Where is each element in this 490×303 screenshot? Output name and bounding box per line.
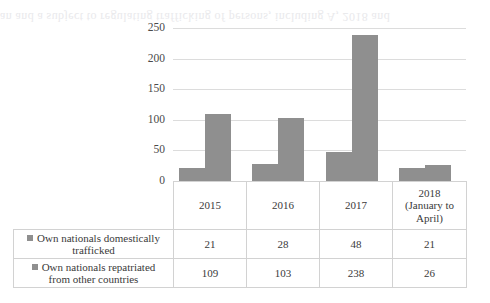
table-row: Own nationals repatriatedfrom other coun…: [14, 259, 467, 288]
table-header-year: 2015: [174, 182, 247, 230]
legend-entry-1: Own nationals domesticallytrafficked: [14, 230, 174, 259]
table-cell-value: 238: [320, 259, 393, 288]
bar-series-2: [278, 118, 304, 181]
year-header-line: (January to: [393, 199, 466, 212]
table-cell-value: 103: [247, 259, 320, 288]
bar-group: [320, 0, 393, 181]
year-header-line: 2016: [247, 199, 319, 212]
table-cell-value: 26: [393, 259, 467, 288]
legend-swatch-icon: [27, 235, 33, 241]
table-header-row: 2015201620172018(January toApril): [14, 182, 467, 230]
bar-group: [246, 0, 319, 181]
bar-series-1: [326, 152, 352, 181]
year-header-line: 2018: [393, 187, 466, 200]
bar-series-2: [352, 35, 378, 181]
year-header-line: 2017: [320, 199, 392, 212]
bar-series-2: [425, 165, 451, 181]
bar-series-2: [205, 114, 231, 181]
bar-series-1: [252, 164, 278, 181]
y-axis: 250200150100500: [0, 0, 173, 190]
y-axis-tick-label: 50: [154, 145, 166, 157]
bar-groups: [173, 0, 466, 181]
legend-label-line1: Own nationals repatriated: [42, 261, 156, 273]
y-axis-tick-label: 100: [148, 114, 165, 126]
table-cell-value: 109: [174, 259, 247, 288]
table-header-corner: [14, 182, 174, 230]
bar-series-1: [399, 168, 425, 181]
legend-label-line2: from other countries: [49, 273, 139, 285]
y-axis-tick-label: 250: [148, 22, 165, 34]
chart-figure: an and a subject to regulating trafficki…: [0, 0, 490, 303]
table-header-year: 2016: [247, 182, 320, 230]
bar-chart: 250200150100500: [0, 0, 490, 190]
table-cell-value: 21: [393, 230, 467, 259]
table-header-year: 2018(January toApril): [393, 182, 467, 230]
year-header-line: 2015: [174, 199, 246, 212]
data-table: 2015201620172018(January toApril)Own nat…: [13, 181, 467, 288]
table-cell-value: 28: [247, 230, 320, 259]
legend-swatch-icon: [32, 264, 38, 270]
table-cell-value: 21: [174, 230, 247, 259]
plot-area: [173, 0, 466, 190]
legend-label-line2: trafficked: [72, 244, 115, 256]
table-row: Own nationals domesticallytrafficked2128…: [14, 230, 467, 259]
y-axis-tick-label: 150: [148, 83, 165, 95]
table-cell-value: 48: [320, 230, 393, 259]
data-table-wrap: 2015201620172018(January toApril)Own nat…: [13, 181, 466, 287]
year-header-line: April): [393, 212, 466, 225]
bar-series-1: [179, 168, 205, 181]
bar-group: [393, 0, 466, 181]
bar-group: [173, 0, 246, 181]
legend-entry-2: Own nationals repatriatedfrom other coun…: [14, 259, 174, 288]
table-header-year: 2017: [320, 182, 393, 230]
y-axis-tick-label: 200: [148, 53, 165, 65]
legend-label-line1: Own nationals domestically: [37, 232, 160, 244]
